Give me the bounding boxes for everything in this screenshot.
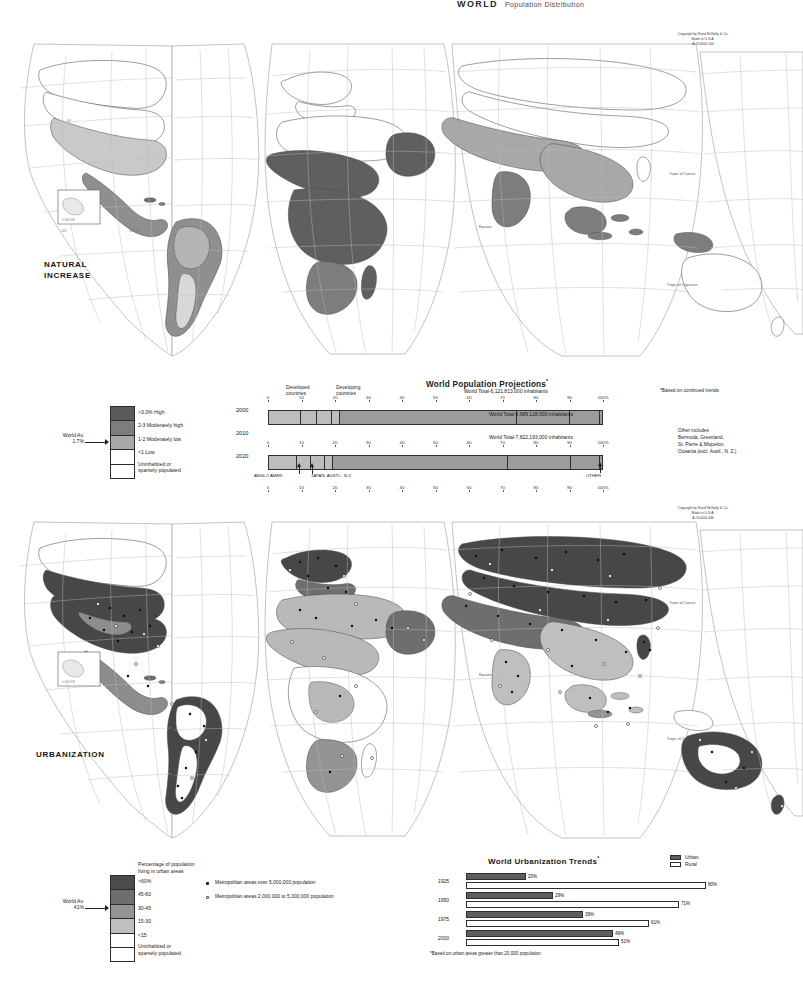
rural-bar[interactable] — [466, 901, 679, 908]
axis-tick-mark — [268, 400, 269, 402]
legend-label-2: 1-2 Moderately low — [138, 433, 248, 446]
axis-tick-mark — [369, 445, 370, 447]
svg-text:60°: 60° — [67, 119, 73, 123]
legend-swatch-0 — [111, 407, 134, 421]
projection-segment[interactable] — [301, 411, 317, 424]
projections-year-2000: 2000 — [236, 407, 248, 413]
axis-tick-mark — [268, 490, 269, 492]
axis-tick-mark — [302, 400, 303, 402]
projection-segment[interactable] — [508, 456, 571, 469]
urbanization-map-svg: Tropic of Cancer Equator Tropic of Capri… — [0, 500, 803, 848]
projection-segment[interactable] — [317, 411, 332, 424]
projection-segment[interactable] — [333, 456, 508, 469]
urbanization-trend-year: 1975 — [438, 916, 449, 922]
projections-title-asterisk: * — [546, 378, 548, 384]
svg-text:Tropic of Cancer: Tropic of Cancer — [669, 601, 696, 605]
group-developed-line-1: Developed — [286, 385, 309, 391]
projections-other-note: Other includes Bermuda, Greenland, St. P… — [678, 428, 803, 456]
urban-bar[interactable] — [466, 892, 553, 899]
world-average-natural-increase: World Av. 1.7% — [28, 432, 84, 445]
urban-bar[interactable] — [466, 873, 526, 880]
legend-key-rural — [670, 862, 681, 867]
legend-label-0: >3.0% High — [138, 406, 248, 419]
legend-label-1: 2-3 Moderately high — [138, 419, 248, 432]
group-developing-line-1: Developing — [336, 385, 360, 391]
rural-bar-value: 71% — [681, 901, 690, 906]
world-urbanization-trends-chart: World Urbanization Trends* Urban Rural 1… — [430, 855, 800, 955]
projections-year-2010: 2010 — [236, 430, 248, 436]
urbanization-trends-rows: 192520%80%195029%71%197539%61%200049%51% — [430, 873, 800, 949]
svg-text:Tropic of Capricorn: Tropic of Capricorn — [667, 283, 697, 287]
world-population-projections-chart: World Population Projections* Developed … — [236, 378, 656, 490]
legend-swatch-2 — [111, 436, 134, 450]
legend-label-4: Uninhabited or sparsely populated — [138, 460, 248, 475]
axis-tick-mark — [436, 445, 437, 447]
projection-segment[interactable] — [325, 456, 333, 469]
projections-bar-2010[interactable] — [268, 455, 603, 470]
metro-large-label: Metropolitan areas over 5,000,000 popula… — [215, 879, 316, 885]
world-average-2-arrowhead-icon — [105, 905, 109, 911]
axis-tick-mark — [436, 400, 437, 402]
legend-heading-line-2: living in urban areas — [138, 868, 195, 875]
svg-text:Equator: Equator — [479, 225, 492, 229]
axis-tick-mark — [369, 490, 370, 492]
urbanization-trends-title-asterisk: * — [597, 855, 599, 861]
page-title: WORLDPopulation Distribution — [457, 0, 584, 9]
axis-tick-mark — [369, 400, 370, 402]
legend-swatch-1 — [111, 421, 134, 435]
legend-heading-line-1: Percentage of population — [138, 861, 195, 868]
legend-swatch-stack-urbanization — [110, 875, 135, 962]
rural-bar[interactable] — [466, 939, 619, 946]
copyright-line-3: A-510000-104 — [648, 42, 758, 47]
svg-text:120°: 120° — [61, 229, 68, 233]
map-title-line-1: NATURAL — [44, 260, 91, 271]
legend-swatch-3 — [111, 450, 134, 464]
rural-bar-value: 61% — [651, 920, 660, 925]
legend-2-label-4: <15 — [138, 929, 238, 942]
metropolitan-symbol-key: Metropolitan areas over 5,000,000 popula… — [206, 879, 421, 907]
rural-bar-value: 80% — [708, 882, 717, 887]
legend-labels-natural-increase: >3.0% High 2-3 Moderately high 1-2 Moder… — [138, 406, 248, 474]
map-natural-increase[interactable]: Tropic of Cancer Equator Tropic of Capri… — [0, 22, 803, 362]
legend-2-label-3: 15-30 — [138, 915, 238, 928]
axis-tick-mark — [503, 400, 504, 402]
rural-bar-value: 51% — [621, 939, 630, 944]
urbanization-trends-title: World Urbanization Trends* — [488, 855, 599, 866]
axis-tick-mark — [603, 445, 604, 447]
projections-callout-anglo-amer: ANGLO AMER. — [254, 473, 284, 478]
projections-total-2000: World Total-6,121,813,000 inhabitants — [376, 388, 636, 394]
rural-bar[interactable] — [466, 920, 649, 927]
urban-bar[interactable] — [466, 930, 613, 937]
rural-bar[interactable] — [466, 882, 706, 889]
projections-callout-japan-austl-nz: JAPAN, AUSTL., N.Z. — [311, 473, 352, 478]
svg-text:0 1000 KM: 0 1000 KM — [62, 218, 75, 222]
projection-segment[interactable] — [571, 456, 600, 469]
axis-tick-mark — [469, 445, 470, 447]
world-average-value: 1.7% — [28, 438, 84, 444]
svg-text:Tropic of Capricorn: Tropic of Capricorn — [667, 737, 697, 741]
legend-2-swatch-4 — [111, 934, 134, 948]
natural-increase-map-svg: Tropic of Cancer Equator Tropic of Capri… — [0, 22, 803, 362]
projections-total-2020: World Total-7,822,193,000 inhabitants — [416, 434, 646, 440]
atlas-page: WORLDPopulation Distribution — [0, 0, 803, 998]
axis-tick-mark — [570, 490, 571, 492]
projection-segment[interactable] — [332, 411, 340, 424]
projections-footnote: *Based on continued trends — [660, 388, 800, 395]
urbanization-trends-title-text: World Urbanization Trends — [488, 857, 597, 866]
svg-text:Tropic of Cancer: Tropic of Cancer — [669, 172, 696, 176]
urbanization-trend-row: 195029%71% — [430, 892, 800, 911]
urban-bar-value: 49% — [615, 931, 624, 936]
urban-bar-value: 29% — [555, 893, 564, 898]
axis-tick-mark — [268, 445, 269, 447]
axis-tick-mark — [603, 490, 604, 492]
urban-bar-value: 20% — [528, 874, 537, 879]
svg-text:100°W: 100°W — [129, 229, 139, 233]
projection-segment[interactable] — [269, 456, 297, 469]
legend-swatch-stack-natural-increase — [110, 406, 135, 479]
urban-bar[interactable] — [466, 911, 583, 918]
axis-tick-mark — [503, 445, 504, 447]
axis-tick-mark — [302, 490, 303, 492]
map-urbanization[interactable]: Tropic of Cancer Equator Tropic of Capri… — [0, 500, 803, 848]
axis-tick-mark — [503, 490, 504, 492]
projection-segment[interactable] — [269, 411, 301, 424]
